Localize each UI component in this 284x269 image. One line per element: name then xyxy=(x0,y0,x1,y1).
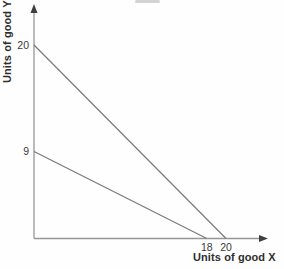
budget-line-inner xyxy=(34,151,207,238)
y-tick-label: 20 xyxy=(1,40,29,51)
chart-canvas xyxy=(0,0,284,269)
x-axis-arrow-icon xyxy=(259,235,268,242)
economics-line-chart: Units of good X Units of good Y 1820209 xyxy=(0,0,284,269)
budget-line-outer xyxy=(34,45,226,239)
x-tick-label: 20 xyxy=(214,242,238,253)
y-tick-label: 9 xyxy=(1,146,29,157)
y-axis-arrow-icon xyxy=(31,4,38,13)
